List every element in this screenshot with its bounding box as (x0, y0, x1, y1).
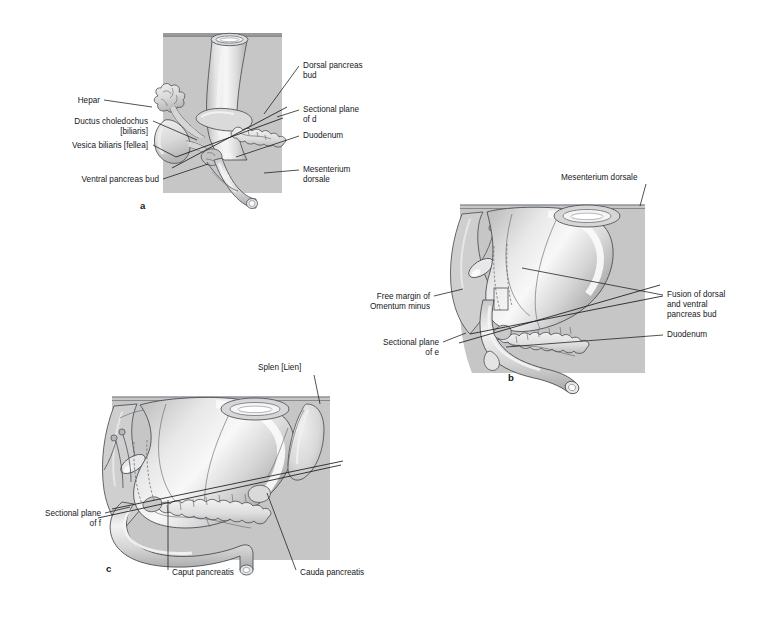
label-free-margin-omentum-2: Omentum minus (370, 302, 430, 311)
label-hepar: Hepar (78, 96, 101, 105)
label-fusion-2: and ventral (667, 300, 708, 309)
label-sectional-plane-f: Sectional plane (45, 509, 101, 518)
label-sectional-plane-d-2: of d (303, 115, 317, 124)
label-splen-lien: Splen [Lien] (258, 363, 301, 372)
label-sectional-plane-e-2: of e (425, 348, 439, 357)
panel-letter-b: b (508, 372, 514, 383)
label-dorsal-pancreas-bud-2: bud (303, 71, 317, 80)
label-sectional-plane-d: Sectional plane (303, 105, 359, 114)
panel-letter-a: a (140, 200, 146, 211)
label-fusion-1: Fusion of dorsal (667, 290, 725, 299)
figure-root: Hepar Ductus choledochus [biliaris] Vesi… (0, 0, 761, 619)
label-cauda-pancreatis: Cauda pancreatis (300, 568, 364, 577)
label-vesica-biliaris: Vesica biliaris [fellea] (72, 141, 148, 150)
label-duodenum-a: Duodenum (303, 131, 343, 140)
label-caput-pancreatis: Caput pancreatis (172, 568, 234, 577)
label-fusion-3: pancreas bud (667, 310, 717, 319)
label-duodenum-b: Duodenum (667, 330, 707, 339)
label-sectional-plane-f-2: of f (90, 519, 102, 528)
panel-a: Hepar Ductus choledochus [biliaris] Vesi… (72, 33, 363, 211)
anatomy-figure: Hepar Ductus choledochus [biliaris] Vesi… (0, 0, 761, 619)
label-free-margin-omentum-1: Free margin of (377, 292, 431, 301)
panel-c: Sectional plane of f Splen [Lien] Caput … (45, 363, 364, 577)
label-mesenterium-dorsale-b: Mesenterium dorsale (561, 173, 638, 182)
label-ventral-pancreas-bud: Ventral pancreas bud (82, 175, 160, 184)
label-ductus-choledochus: Ductus choledochus (74, 117, 148, 126)
label-mesenterium-dorsale-a-2: dorsale (303, 175, 330, 184)
panel-b: Free margin of Omentum minus Sectional p… (370, 173, 725, 396)
label-mesenterium-dorsale-a: Mesenterium (303, 165, 351, 174)
label-ductus-choledochus-2: [biliaris] (120, 127, 148, 136)
label-dorsal-pancreas-bud: Dorsal pancreas (303, 61, 363, 70)
label-sectional-plane-e: Sectional plane (383, 338, 439, 347)
panel-letter-c: c (106, 563, 112, 574)
